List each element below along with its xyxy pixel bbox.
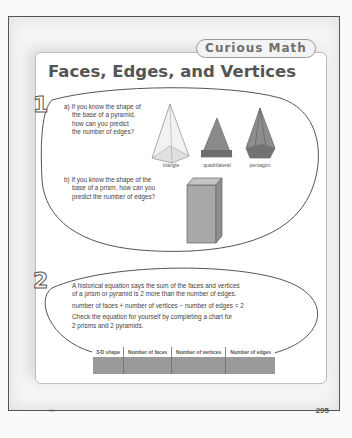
col-header-edges: Number of edges — [226, 347, 275, 357]
table-cell — [124, 357, 172, 374]
question-1a-text: a) If you know the shape of the base of … — [64, 103, 141, 137]
question-1-number: 1 — [33, 92, 48, 117]
pyramid-label-quadrilateral: quadrilateral — [197, 162, 237, 168]
footer-left-mark: NEL — [49, 409, 55, 413]
question-2-number: 2 — [33, 268, 48, 293]
triangular-pyramid-icon — [152, 104, 189, 163]
col-header-faces: Number of faces — [124, 347, 172, 357]
pentagonal-pyramid-icon — [246, 108, 275, 158]
shape-chart: 3-D shape Number of faces Number of vert… — [93, 347, 275, 374]
col-header-shape: 3-D shape — [93, 347, 124, 357]
pyramid-label-triangle: triangle — [151, 162, 191, 168]
page-number: 295 — [316, 406, 329, 415]
table-cell — [172, 357, 226, 374]
question-2-text: A historical equation says the sum of th… — [72, 282, 244, 330]
table-row — [93, 357, 275, 374]
pyramid-label-pentagon: pentagon — [240, 162, 280, 168]
col-header-vertices: Number of vertices — [172, 347, 226, 357]
question-1b-text: b) If you know the shape of the base of … — [64, 176, 155, 201]
table-cell — [93, 357, 124, 374]
square-pyramid-icon — [201, 118, 232, 157]
table-cell — [226, 357, 275, 374]
rectangular-prism-icon — [187, 178, 222, 243]
